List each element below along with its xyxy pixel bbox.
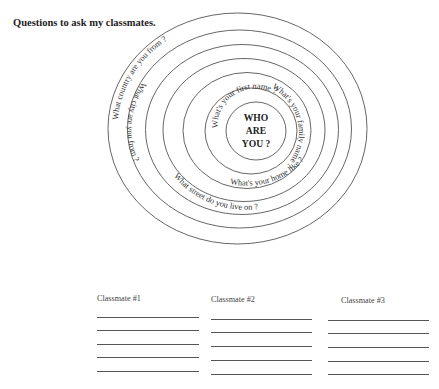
classmate-2-answer-line[interactable] xyxy=(211,332,312,333)
classmate-1-answer-line[interactable] xyxy=(97,330,199,331)
classmate-3-answer-line[interactable] xyxy=(328,333,429,334)
classmate-1-answer-line[interactable] xyxy=(97,371,199,372)
classmate-1-label: Classmate #1 xyxy=(97,294,141,303)
ring-2 xyxy=(128,30,352,228)
classmate-2-answer-line[interactable] xyxy=(211,346,312,347)
classmate-2-label: Classmate #2 xyxy=(211,295,255,304)
classmate-3-answer-line[interactable] xyxy=(328,374,429,375)
question-street: What street do you live on ? xyxy=(172,171,258,211)
center-line-1: WHO xyxy=(244,112,269,123)
ring-3 xyxy=(146,45,339,215)
classmate-1-answer-line[interactable] xyxy=(97,317,199,318)
classmate-3-answer-line[interactable] xyxy=(328,320,429,321)
classmate-3-answer-line[interactable] xyxy=(328,347,429,348)
target-diagram: What country are you from ? What city ar… xyxy=(0,0,439,389)
classmate-2-answer-line[interactable] xyxy=(211,319,312,320)
classmate-3-label: Classmate #3 xyxy=(341,296,385,305)
question-country: What country are you from ? xyxy=(111,34,168,120)
classmate-2-answer-line[interactable] xyxy=(211,374,312,375)
classmate-3-answer-line[interactable] xyxy=(328,361,429,362)
classmate-2-answer-line[interactable] xyxy=(211,360,312,361)
question-city: What city are you from ? xyxy=(125,81,148,163)
classmate-1-answer-line[interactable] xyxy=(97,344,199,345)
center-line-2: ARE xyxy=(246,125,266,136)
center-line-3: YOU ? xyxy=(242,138,271,149)
classmate-1-answer-line[interactable] xyxy=(97,357,199,358)
